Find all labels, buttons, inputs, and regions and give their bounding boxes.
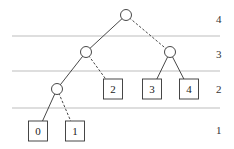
tree-svg: 01234 [0,0,234,149]
internal-node [165,47,176,58]
leaf-label: 0 [35,125,41,137]
level-label: 2 [216,83,222,95]
tree-diagram: 01234 4321 [0,0,234,149]
internal-node [52,84,63,95]
internal-node [121,10,132,21]
level-label: 1 [216,124,222,136]
internal-node [81,47,92,58]
leaf-label: 4 [186,83,192,95]
leaf-label: 1 [72,125,78,137]
tree-edge [86,15,126,52]
tree-edge [126,15,170,52]
leaf-label: 3 [149,83,155,95]
level-label: 3 [216,48,222,60]
level-label: 4 [216,13,222,25]
leaf-label: 2 [110,83,116,95]
